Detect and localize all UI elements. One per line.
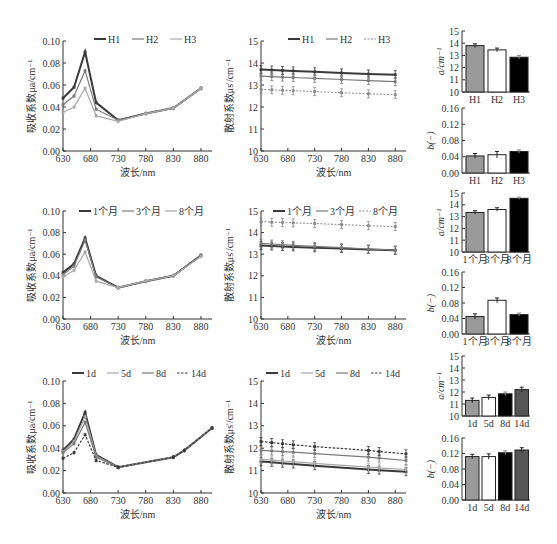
bar (510, 57, 528, 92)
x-tick-label: 780 (138, 153, 153, 164)
chart-bar-a-h: 101112131415a/cm⁻¹H1H2H3 (435, 26, 530, 106)
x-tick-label: 5d (484, 418, 494, 429)
data-point (95, 108, 98, 111)
bar (466, 156, 484, 173)
legend-label: 1个月 (287, 206, 312, 217)
data-point (84, 69, 87, 72)
bar (488, 210, 506, 252)
data-point (117, 466, 120, 469)
data-point (62, 451, 65, 454)
chart-bar-b-m: 0.000.040.080.120.16b(−)1个月3个月8个月 (425, 267, 532, 348)
data-point (260, 220, 263, 223)
bar (482, 457, 496, 500)
y-tick-label: 0.16 (442, 103, 460, 114)
y-axis-label: b(−) (425, 459, 437, 478)
x-axis-label: 波长/nm (316, 508, 352, 520)
x-tick-label: 630 (56, 153, 71, 164)
x-tick-label: 8个月 (507, 254, 532, 265)
y-tick-label: 12 (449, 223, 459, 234)
data-point (378, 467, 381, 470)
y-tick-label: 10 (449, 87, 459, 98)
series-H1 (62, 50, 203, 122)
y-tick-label: 15 (449, 188, 459, 199)
bar (465, 457, 479, 500)
y-tick-label: 0.12 (442, 119, 460, 130)
x-tick-label: 8个月 (507, 336, 532, 347)
y-tick-label: 10 (449, 411, 459, 422)
data-point (367, 92, 370, 95)
data-point (313, 70, 316, 73)
data-point (172, 274, 175, 277)
y-axis-label: 散射系数μs'/cm⁻¹ (223, 59, 235, 133)
legend-label: H2 (146, 34, 158, 45)
data-point (95, 101, 98, 104)
x-axis-label: 波长/nm (120, 508, 156, 520)
x-tick-label: 680 (83, 153, 98, 164)
x-tick-label: 730 (111, 495, 126, 506)
data-point (281, 243, 284, 246)
data-point (73, 106, 76, 109)
data-point (313, 222, 316, 225)
x-axis-label: 波长/nm (120, 166, 156, 178)
y-tick-label: 0.08 (43, 227, 61, 238)
y-tick-label: 13 (248, 420, 258, 431)
chart-bar-a-d: 101112131415a/cm⁻¹1d5d8d14d (435, 351, 530, 430)
series-line (63, 52, 201, 120)
data-point (144, 280, 147, 283)
data-point (84, 415, 87, 418)
y-tick-label: 0.04 (442, 313, 460, 324)
legend-label: 8d (156, 368, 166, 379)
data-point (270, 441, 273, 444)
y-axis-label: b(−) (425, 131, 437, 150)
legend-label: 1d (86, 368, 96, 379)
series-8个月 (260, 218, 397, 231)
data-point (95, 459, 98, 462)
legend-label: H1 (108, 34, 120, 45)
legend-label: H3 (184, 34, 196, 45)
data-point (260, 440, 263, 443)
legend-label: H3 (378, 34, 390, 45)
data-point (367, 456, 370, 459)
bar (488, 50, 506, 92)
y-tick-label: 11 (449, 399, 459, 410)
data-point (270, 69, 273, 72)
data-point (394, 249, 397, 252)
y-tick-label: 12 (449, 387, 459, 398)
y-tick-label: 13 (449, 375, 459, 386)
x-tick-label: 680 (280, 321, 295, 332)
x-tick-label: 780 (334, 153, 349, 164)
series-H3 (260, 85, 397, 98)
y-axis-label: 散射系数μs'/cm⁻¹ (223, 400, 235, 474)
data-point (260, 68, 263, 71)
legend: 1d5d8d14d (266, 368, 400, 379)
data-point (260, 75, 263, 78)
data-point (62, 457, 65, 460)
data-point (292, 89, 295, 92)
data-point (84, 433, 87, 436)
data-point (313, 462, 316, 465)
bar (482, 397, 496, 416)
legend-label: 1个月 (93, 206, 118, 217)
series-3个月 (62, 238, 203, 290)
data-point (62, 111, 65, 114)
data-point (292, 76, 295, 79)
x-tick-label: 730 (307, 321, 322, 332)
bar (515, 450, 529, 500)
x-tick-label: H3 (513, 175, 525, 186)
y-axis-label: 吸收系数μa/cm⁻¹ (25, 228, 37, 301)
bar (466, 46, 484, 92)
legend-label: 8个月 (373, 206, 398, 217)
y-tick-label: 0.16 (442, 267, 460, 278)
x-tick-label: H2 (491, 175, 503, 186)
x-tick-label: 880 (388, 321, 403, 332)
data-point (95, 280, 98, 283)
x-tick-label: 630 (254, 495, 269, 506)
bar (498, 453, 512, 500)
data-point (367, 73, 370, 76)
data-point (73, 86, 76, 89)
legend: 1d5d8d14d (72, 368, 206, 379)
figure-canvas: 0.000.020.040.060.080.106306807307808308… (0, 0, 557, 544)
legend-label: H2 (340, 34, 352, 45)
y-tick-label: 0.12 (442, 448, 460, 459)
data-point (73, 442, 76, 445)
